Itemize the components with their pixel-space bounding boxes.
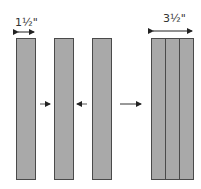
block-divider-1 — [165, 38, 166, 180]
combined-block — [151, 38, 194, 180]
block-divider-2 — [179, 38, 180, 180]
board-2 — [54, 38, 74, 180]
board-3 — [92, 38, 112, 180]
board-1 — [16, 38, 36, 180]
